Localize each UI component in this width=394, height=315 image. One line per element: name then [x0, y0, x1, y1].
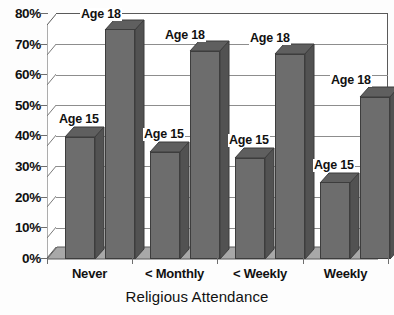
- bar-face: [275, 54, 305, 259]
- data-label-weekly-age15: Age 15: [313, 159, 355, 172]
- category-tick-4: [388, 258, 389, 264]
- bar-weekly-age18: [360, 97, 390, 259]
- bar-chart: 80% 70% 60% 50% 40% 30% 20% 10% 0%: [0, 0, 394, 315]
- y-tick-label-80: 80%: [0, 6, 41, 21]
- category-tick-1: [132, 258, 133, 264]
- bar-face: [150, 152, 180, 259]
- category-tick-0: [47, 258, 48, 264]
- bar-face: [65, 137, 95, 260]
- data-label-weekly-lt-age18: Age 18: [249, 32, 291, 45]
- bar-face: [190, 51, 220, 259]
- bar-never-age18: [105, 29, 135, 259]
- data-label-weekly-lt-age15: Age 15: [228, 134, 270, 147]
- category-label-never: Never: [47, 266, 132, 281]
- y-tick-label-50: 50%: [0, 97, 41, 112]
- bar-face: [105, 29, 135, 259]
- y-tick-label-70: 70%: [0, 36, 41, 51]
- y-tick-label-10: 10%: [0, 220, 41, 235]
- y-axis: 80% 70% 60% 50% 40% 30% 20% 10% 0%: [0, 0, 46, 315]
- bar-face: [320, 182, 350, 259]
- data-label-monthly-age18: Age 18: [164, 29, 206, 42]
- bar-weekly-age15: [320, 182, 350, 259]
- y-tick-label-20: 20%: [0, 189, 41, 204]
- bar-never-age15: [65, 137, 95, 260]
- data-label-weekly-age18: Age 18: [330, 74, 372, 87]
- x-axis-title: Religious Attendance: [0, 288, 394, 305]
- y-tick-label-0: 0%: [0, 250, 41, 265]
- y-tick-label-40: 40%: [0, 128, 41, 143]
- category-label-monthly: < Monthly: [132, 266, 217, 281]
- data-label-never-age18: Age 18: [80, 8, 122, 21]
- bars-layer: [47, 13, 388, 259]
- category-tick-2: [217, 258, 218, 264]
- bar-monthly-age18: [190, 51, 220, 259]
- data-label-monthly-age15: Age 15: [143, 128, 185, 141]
- data-label-never-age15: Age 15: [58, 113, 100, 126]
- y-tick-label-60: 60%: [0, 67, 41, 82]
- bar-weekly-lt-age15: [235, 158, 265, 259]
- bar-weekly-lt-age18: [275, 54, 305, 259]
- bar-monthly-age15: [150, 152, 180, 259]
- category-tick-3: [303, 258, 304, 264]
- y-tick-label-30: 30%: [0, 159, 41, 174]
- category-label-weekly: Weekly: [303, 266, 388, 281]
- bar-face: [235, 158, 265, 259]
- bar-face: [360, 97, 390, 259]
- category-label-weekly-lt: < Weekly: [217, 266, 303, 281]
